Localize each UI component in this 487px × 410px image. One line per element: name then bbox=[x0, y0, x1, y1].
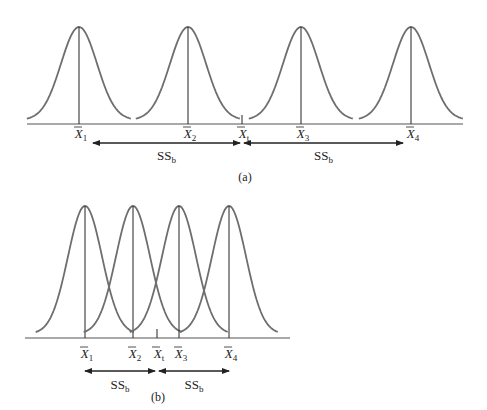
ss-between-label-2: SSb bbox=[185, 377, 204, 394]
ss-between-label-1: SSb bbox=[111, 377, 130, 394]
panel-b-overlapping-distributions: X1X2X3X4XtSSbSSb(b) bbox=[25, 206, 290, 404]
panel-caption: (a) bbox=[238, 170, 251, 184]
mean-label-x4: X4 bbox=[224, 346, 238, 363]
mean-label-x2: X2 bbox=[128, 346, 141, 363]
mean-label-x4: X4 bbox=[406, 126, 420, 143]
ss-between-label-1: SSb bbox=[157, 148, 176, 165]
ss-between-label-2: SSb bbox=[314, 148, 333, 165]
mean-label-x1: X1 bbox=[80, 346, 93, 363]
grand-mean-label: Xt bbox=[153, 346, 165, 363]
mean-label-x2: X2 bbox=[183, 126, 196, 143]
panel-a-spread-distributions: X1X2X3X4XtSSbSSb(a) bbox=[27, 27, 463, 184]
mean-label-x3: X3 bbox=[174, 346, 188, 363]
mean-label-x3: X3 bbox=[296, 126, 310, 143]
anova-diagram: X1X2X3X4XtSSbSSb(a) X1X2X3X4XtSSbSSb(b) bbox=[0, 0, 487, 410]
mean-label-x1: X1 bbox=[74, 126, 87, 143]
panel-caption: (b) bbox=[151, 390, 165, 404]
grand-mean-label: Xt bbox=[238, 126, 250, 143]
